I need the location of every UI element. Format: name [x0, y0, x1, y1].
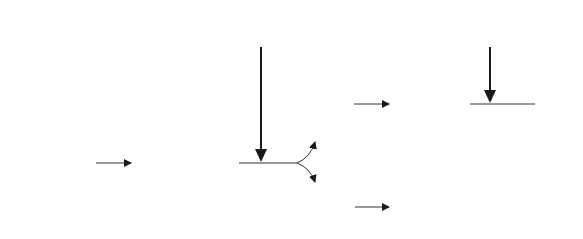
connector-arrows — [0, 0, 583, 239]
